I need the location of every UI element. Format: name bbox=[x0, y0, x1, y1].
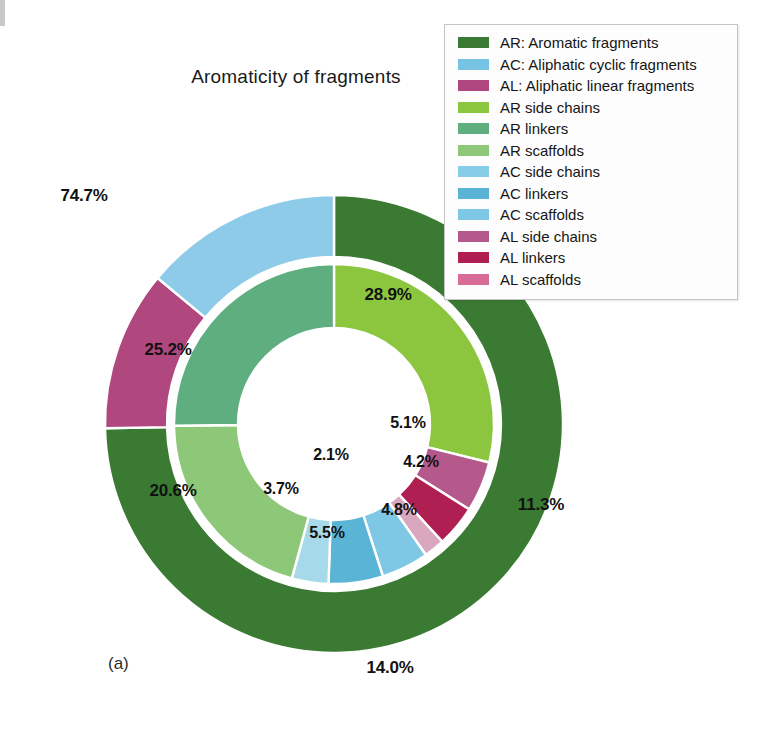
legend-item: AL side chains bbox=[455, 226, 727, 248]
legend-item: AC linkers bbox=[455, 183, 727, 205]
legend-item-label: AC side chains bbox=[500, 164, 600, 179]
legend-item: AL: Aliphatic linear fragments bbox=[455, 75, 727, 97]
legend-item-label: AC: Aliphatic cyclic fragments bbox=[500, 57, 697, 72]
inner-slice-value-label: 28.9% bbox=[364, 285, 411, 305]
legend-color-swatch bbox=[458, 80, 489, 91]
legend-color-swatch bbox=[458, 209, 489, 220]
figure-panel: Aromaticity of fragments 74.7%11.3%14.0%… bbox=[0, 0, 784, 737]
legend-item-label: AL side chains bbox=[500, 229, 597, 244]
outer-slice-value-label: 74.7% bbox=[60, 186, 107, 206]
legend-item: AR scaffolds bbox=[455, 140, 727, 162]
legend-item: AR side chains bbox=[455, 97, 727, 119]
outer-slice-value-label: 11.3% bbox=[518, 495, 564, 515]
inner-slice-value-label: 4.2% bbox=[403, 453, 439, 471]
legend-item: AC side chains bbox=[455, 161, 727, 183]
inner-slice-value-label: 20.6% bbox=[149, 481, 196, 501]
legend-color-swatch bbox=[458, 123, 489, 134]
legend-item-label: AC scaffolds bbox=[500, 207, 584, 222]
legend-item: AC scaffolds bbox=[455, 204, 727, 226]
inner-slice-value-label: 5.5% bbox=[309, 524, 345, 542]
legend-color-swatch bbox=[458, 59, 489, 70]
page-edge-mark bbox=[0, 0, 5, 26]
legend-item: AL scaffolds bbox=[455, 269, 727, 291]
panel-label: (a) bbox=[108, 654, 129, 674]
legend-color-swatch bbox=[458, 188, 489, 199]
legend-color-swatch bbox=[458, 145, 489, 156]
inner-slice-value-label: 2.1% bbox=[313, 446, 349, 464]
legend-item-label: AC linkers bbox=[500, 186, 568, 201]
legend-item-label: AR: Aromatic fragments bbox=[500, 35, 658, 50]
legend-item-label: AR side chains bbox=[500, 100, 600, 115]
legend-color-swatch bbox=[458, 102, 489, 113]
legend-color-swatch bbox=[458, 252, 489, 263]
inner-slice-value-label: 25.2% bbox=[144, 340, 191, 360]
legend-item: AR linkers bbox=[455, 118, 727, 140]
legend-item: AR: Aromatic fragments bbox=[455, 32, 727, 54]
legend-item-label: AR scaffolds bbox=[500, 143, 584, 158]
inner-slice-value-label: 3.7% bbox=[263, 480, 299, 498]
legend-color-swatch bbox=[458, 166, 489, 177]
legend-item-label: AL scaffolds bbox=[500, 272, 581, 287]
outer-slice-value-label: 14.0% bbox=[366, 658, 413, 678]
inner-slice-value-label: 4.8% bbox=[381, 501, 417, 519]
legend-color-swatch bbox=[458, 37, 489, 48]
legend-color-swatch bbox=[458, 274, 489, 285]
legend-item-label: AL: Aliphatic linear fragments bbox=[500, 78, 694, 93]
legend-item: AC: Aliphatic cyclic fragments bbox=[455, 54, 727, 76]
chart-legend: AR: Aromatic fragmentsAC: Aliphatic cycl… bbox=[444, 24, 738, 300]
legend-item-label: AL linkers bbox=[500, 250, 565, 265]
inner-slice-value-label: 5.1% bbox=[390, 414, 426, 432]
chart-title: Aromaticity of fragments bbox=[166, 66, 426, 88]
legend-item: AL linkers bbox=[455, 247, 727, 269]
legend-color-swatch bbox=[458, 231, 489, 242]
legend-item-label: AR linkers bbox=[500, 121, 568, 136]
